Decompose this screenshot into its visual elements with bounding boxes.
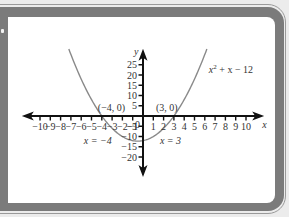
x-tick-label: 4 xyxy=(182,121,187,132)
figure-stage: −10−9−8−7−6−5−4−3−2−10123456789102520151… xyxy=(0,0,289,217)
frame-mark xyxy=(1,29,4,33)
asymptote-label-right: x = 3 xyxy=(159,135,181,146)
x-tick-label: 6 xyxy=(202,121,207,132)
x-tick-label: −8 xyxy=(55,121,66,132)
x-tick-label: −4 xyxy=(96,121,107,132)
x-tick-label: 2 xyxy=(161,121,166,132)
x-tick-label: 7 xyxy=(213,121,218,132)
x-tick-label: 1 xyxy=(151,121,156,132)
x-tick-label: −3 xyxy=(107,121,118,132)
x-axis-label: x xyxy=(261,119,267,130)
y-axis-label: y xyxy=(133,46,139,57)
x-tick-label: 8 xyxy=(223,121,228,132)
x-tick-label: 5 xyxy=(192,121,197,132)
plot-panel: −10−9−8−7−6−5−4−3−2−10123456789102520151… xyxy=(8,17,275,203)
asymptote-label-left: x = −4 xyxy=(83,135,112,146)
function-label: x2 + x − 12 xyxy=(208,63,253,75)
x-tick-label: 3 xyxy=(171,121,176,132)
x-tick-label: −9 xyxy=(45,121,56,132)
x-tick-label: −7 xyxy=(66,121,77,132)
y-tick-label: 5 xyxy=(132,100,137,111)
labels-layer: −10−9−8−7−6−5−4−3−2−10123456789102520151… xyxy=(32,46,267,163)
x-tick-label: −5 xyxy=(86,121,97,132)
x-tick-label: 9 xyxy=(233,121,238,132)
parabola-plot: −10−9−8−7−6−5−4−3−2−10123456789102520151… xyxy=(8,17,275,203)
y-tick-label: −20 xyxy=(121,152,137,163)
root-label-left: (−4, 0) xyxy=(98,102,125,114)
root-label-right: (3, 0) xyxy=(156,102,178,114)
x-tick-label: 10 xyxy=(241,121,251,132)
x-tick-label: −6 xyxy=(76,121,87,132)
